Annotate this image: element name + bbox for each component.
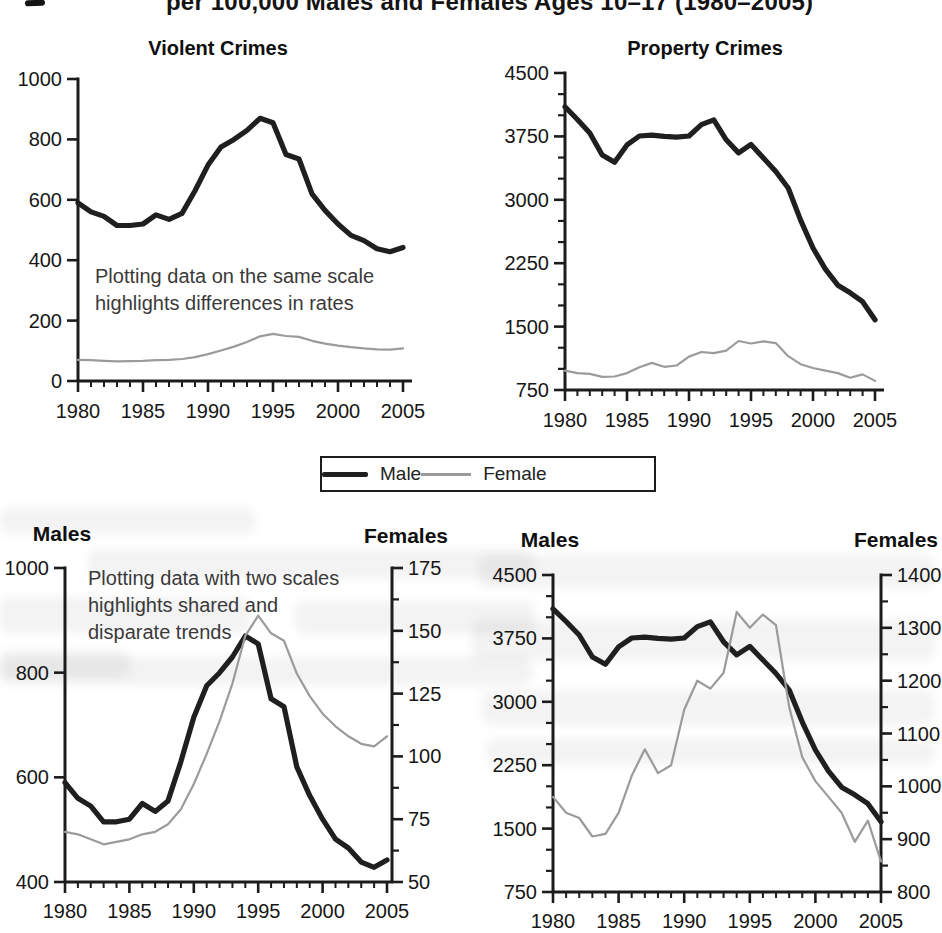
y-tick-label: 400 bbox=[29, 249, 62, 271]
females-axis-label: Females bbox=[364, 524, 448, 547]
y-tick-label: 4500 bbox=[505, 62, 550, 84]
female-series-line bbox=[553, 612, 881, 861]
x-tick-label: 1980 bbox=[43, 900, 88, 922]
y-tick-label: 750 bbox=[504, 881, 537, 903]
x-tick-label: 1995 bbox=[251, 400, 296, 422]
x-tick-label: 1995 bbox=[729, 409, 774, 431]
x-tick-label: 1985 bbox=[596, 910, 641, 932]
x-tick-label: 2000 bbox=[300, 900, 345, 922]
y-tick-label: 3750 bbox=[493, 627, 538, 649]
y-tick-label: 800 bbox=[897, 881, 930, 903]
violent-crimes-same-scale-chart: 0200400600800100019801985199019952000200… bbox=[0, 28, 462, 460]
y-tick-label: 3000 bbox=[493, 691, 538, 713]
y-tick-label: 3000 bbox=[505, 189, 550, 211]
male-series-line bbox=[565, 107, 875, 320]
y-tick-label: 50 bbox=[408, 871, 430, 893]
female-series-line bbox=[78, 334, 403, 362]
male-series-line bbox=[65, 636, 387, 867]
males-axis-label: Males bbox=[33, 522, 91, 545]
females-axis-label: Females bbox=[854, 528, 938, 551]
x-axis: 198019851990199520002005 bbox=[543, 390, 898, 431]
x-tick-label: 2000 bbox=[793, 910, 838, 932]
figure-number-fragment bbox=[25, 0, 45, 7]
page-title: per 100,000 Males and Females Ages 10–17… bbox=[166, 0, 813, 16]
y-tick-label: 800 bbox=[16, 662, 49, 684]
x-tick-label: 2005 bbox=[859, 910, 904, 932]
legend-female-label: Female bbox=[483, 463, 546, 485]
x-tick-label: 1980 bbox=[56, 400, 101, 422]
males-axis-label: Males bbox=[521, 528, 579, 551]
right-axis: 5075100125150175 bbox=[392, 557, 441, 893]
y-tick-label: 400 bbox=[16, 871, 49, 893]
y-tick-label: 100 bbox=[408, 745, 441, 767]
y-tick-label: 175 bbox=[408, 557, 441, 579]
y-tick-label: 900 bbox=[897, 828, 930, 850]
property-crimes-same-scale-chart: 7501500225030003750450019801985199019952… bbox=[470, 28, 942, 460]
x-tick-label: 1995 bbox=[236, 900, 281, 922]
x-tick-label: 2005 bbox=[853, 409, 898, 431]
x-tick-label: 1985 bbox=[121, 400, 166, 422]
left-axis: 02004006008001000 bbox=[18, 68, 79, 392]
female-series-line bbox=[565, 341, 875, 381]
x-tick-label: 2005 bbox=[381, 400, 426, 422]
chart-title: Violent Crimes bbox=[148, 37, 288, 59]
violent-crimes-same-scale-svg: 0200400600800100019801985199019952000200… bbox=[0, 28, 462, 460]
y-tick-label: 1100 bbox=[897, 723, 940, 745]
y-tick-label: 800 bbox=[29, 128, 62, 150]
y-tick-label: 750 bbox=[516, 379, 549, 401]
x-tick-label: 2000 bbox=[316, 400, 361, 422]
violent-crimes-two-scales-svg: 4006008001000507510012515017519801985199… bbox=[0, 510, 470, 933]
annotation-text: Plotting data with two scaleshighlights … bbox=[88, 567, 339, 643]
y-tick-label: 1000 bbox=[18, 68, 63, 90]
x-tick-label: 1990 bbox=[662, 910, 707, 932]
y-tick-label: 200 bbox=[29, 310, 62, 332]
violent-crimes-two-scales-chart: 4006008001000507510012515017519801985199… bbox=[0, 510, 470, 933]
y-tick-label: 125 bbox=[408, 683, 441, 705]
left-axis: 75015002250300037504500 bbox=[493, 564, 554, 903]
property-crimes-two-scales-chart: 7501500225030003750450080090010001100120… bbox=[470, 510, 942, 933]
x-tick-label: 1985 bbox=[605, 409, 650, 431]
y-tick-label: 2250 bbox=[493, 754, 538, 776]
y-tick-label: 1400 bbox=[897, 564, 942, 586]
y-tick-label: 600 bbox=[29, 189, 62, 211]
left-axis: 75015002250300037504500 bbox=[505, 62, 566, 401]
annotation-text: Plotting data on the same scalehighlight… bbox=[95, 265, 374, 314]
chart-title: Property Crimes bbox=[627, 37, 783, 59]
y-tick-label: 1200 bbox=[897, 670, 942, 692]
y-tick-label: 3750 bbox=[505, 125, 550, 147]
x-axis: 198019851990199520002005 bbox=[43, 882, 410, 922]
y-tick-label: 150 bbox=[408, 620, 441, 642]
y-tick-label: 1500 bbox=[505, 316, 550, 338]
legend: Male Female bbox=[320, 456, 656, 492]
x-tick-label: 1990 bbox=[667, 409, 712, 431]
x-tick-label: 1990 bbox=[172, 900, 217, 922]
figure-page: per 100,000 Males and Females Ages 10–17… bbox=[0, 0, 942, 933]
x-tick-label: 1995 bbox=[728, 910, 773, 932]
female-line-swatch bbox=[421, 473, 471, 476]
x-tick-label: 2000 bbox=[791, 409, 836, 431]
right-axis: 80090010001100120013001400 bbox=[881, 564, 942, 903]
property-crimes-two-scales-svg: 7501500225030003750450080090010001100120… bbox=[470, 510, 942, 933]
legend-male-label: Male bbox=[380, 463, 421, 485]
x-tick-label: 1985 bbox=[107, 900, 152, 922]
left-axis: 4006008001000 bbox=[5, 557, 66, 893]
y-tick-label: 1500 bbox=[493, 818, 538, 840]
property-crimes-same-scale-svg: 7501500225030003750450019801985199019952… bbox=[470, 28, 942, 460]
y-tick-label: 1300 bbox=[897, 617, 942, 639]
x-tick-label: 2005 bbox=[365, 900, 410, 922]
y-tick-label: 75 bbox=[408, 808, 430, 830]
x-axis: 198019851990199520002005 bbox=[531, 892, 904, 932]
male-series-line bbox=[78, 118, 403, 251]
y-tick-label: 600 bbox=[16, 766, 49, 788]
y-tick-label: 0 bbox=[51, 370, 62, 392]
x-tick-label: 1990 bbox=[186, 400, 231, 422]
male-series-line bbox=[553, 609, 881, 822]
y-tick-label: 1000 bbox=[5, 557, 50, 579]
y-tick-label: 4500 bbox=[493, 564, 538, 586]
x-axis: 198019851990199520002005 bbox=[56, 381, 426, 422]
x-tick-label: 1980 bbox=[531, 910, 576, 932]
female-series-line bbox=[65, 616, 387, 845]
male-line-swatch bbox=[322, 472, 368, 477]
x-tick-label: 1980 bbox=[543, 409, 588, 431]
y-tick-label: 1000 bbox=[897, 775, 942, 797]
